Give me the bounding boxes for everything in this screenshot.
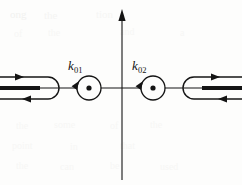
pole-k01-label-symbol: k bbox=[68, 58, 74, 73]
branch-cut-left-upper-arrowhead bbox=[15, 74, 24, 81]
pole-k02-dot bbox=[150, 85, 155, 90]
pole-k01-label-subscript: 01 bbox=[74, 65, 82, 75]
pole-k02-label-subscript: 02 bbox=[138, 65, 146, 75]
branch-cut-left-lower-arrowhead bbox=[22, 96, 31, 103]
pole-k01-dot bbox=[86, 85, 91, 90]
figure-canvas: ongthetionoftheandathesomeofthepointinth… bbox=[0, 0, 242, 185]
imaginary-axis-arrowhead bbox=[118, 9, 125, 21]
pole-k01-label: k01 bbox=[68, 59, 82, 72]
branch-cut-right-upper-arrowhead bbox=[211, 74, 220, 81]
contour-diagram bbox=[0, 0, 242, 185]
branch-cut-right-lower-arrowhead bbox=[218, 96, 227, 103]
pole-k02-label: k02 bbox=[132, 59, 146, 72]
pole-k02-label-symbol: k bbox=[132, 58, 138, 73]
